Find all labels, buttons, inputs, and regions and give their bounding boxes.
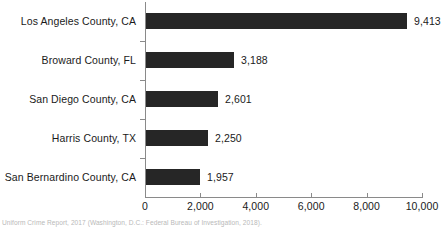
x-tick-mark bbox=[145, 193, 146, 198]
bar bbox=[146, 91, 218, 107]
x-tick-label: 10,000 bbox=[406, 200, 439, 212]
category-label: Harris County, TX bbox=[0, 130, 136, 146]
bar-value-label: 2,250 bbox=[215, 130, 242, 146]
category-label: Broward County, FL bbox=[0, 52, 136, 68]
source-footnote: Uniform Crime Report, 2017 (Washington, … bbox=[2, 219, 262, 226]
bar bbox=[146, 169, 200, 185]
bar-row: San Diego County, CA2,601 bbox=[0, 80, 444, 119]
bar-chart: Los Angeles County, CA9,413Broward Count… bbox=[0, 0, 444, 235]
x-tick-label: 8,000 bbox=[353, 200, 380, 212]
y-tick-mark bbox=[140, 119, 145, 120]
bar-value-label: 2,601 bbox=[225, 91, 252, 107]
x-tick-mark bbox=[200, 193, 201, 198]
bar-value-label: 3,188 bbox=[241, 52, 268, 68]
x-tick-mark bbox=[367, 193, 368, 198]
y-tick-mark bbox=[140, 158, 145, 159]
x-tick-mark bbox=[256, 193, 257, 198]
x-tick-label: 6,000 bbox=[298, 200, 325, 212]
x-tick-mark bbox=[422, 193, 423, 198]
category-label: San Diego County, CA bbox=[0, 91, 136, 107]
x-axis-line bbox=[145, 197, 423, 198]
x-tick-label: 2,000 bbox=[187, 200, 214, 212]
y-tick-mark bbox=[140, 41, 145, 42]
bar bbox=[146, 130, 208, 146]
bar bbox=[146, 52, 234, 68]
bar-row: Harris County, TX2,250 bbox=[0, 119, 444, 158]
category-label: San Bernardino County, CA bbox=[0, 169, 136, 185]
bar-row: Los Angeles County, CA9,413 bbox=[0, 2, 444, 41]
bar-value-label: 9,413 bbox=[414, 13, 441, 29]
x-tick-label: 0 bbox=[142, 200, 148, 212]
x-tick-mark bbox=[311, 193, 312, 198]
category-label: Los Angeles County, CA bbox=[0, 13, 136, 29]
x-tick-label: 4,000 bbox=[242, 200, 269, 212]
bar bbox=[146, 13, 407, 29]
y-tick-mark bbox=[140, 80, 145, 81]
bar-row: San Bernardino County, CA1,957 bbox=[0, 158, 444, 197]
bar-value-label: 1,957 bbox=[207, 169, 234, 185]
bar-row: Broward County, FL3,188 bbox=[0, 41, 444, 80]
